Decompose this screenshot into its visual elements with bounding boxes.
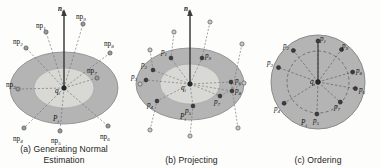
panel-b-caption: (b) Projecting bbox=[128, 155, 255, 166]
ordered-label-p5: p5 bbox=[313, 118, 319, 127]
normal-vector-label: ni bbox=[184, 6, 189, 15]
patch-label: Pi bbox=[301, 120, 307, 129]
center-point-marker bbox=[62, 86, 67, 91]
neighbor-label-np6: np6 bbox=[100, 134, 110, 143]
neighbor-label-np7: np7 bbox=[87, 68, 97, 77]
neighbor-label-np9: np9 bbox=[76, 14, 86, 23]
panel-generating-normal-estimation: ni qi Pi nnpp1 np2 np3 np4 np5 np6 np7 n… bbox=[0, 0, 128, 168]
panel-b-canvas bbox=[128, 0, 255, 148]
ordered-label-p4: p4 bbox=[274, 106, 280, 115]
ordered-label-p6: p6 bbox=[359, 87, 365, 96]
panel-a-caption: (a) Generating Normal Estimation bbox=[0, 144, 128, 166]
neighbor-label-np3: np3 bbox=[6, 82, 16, 91]
ordered-label-p9: p9 bbox=[342, 43, 348, 52]
panel-b-stage: ni qi Pi p1 p2 p3 p4 p5 p6 p7 p8 p9 bbox=[128, 0, 255, 148]
panel-c-stage: qi Pi p1 p2 p3 p4 p5 p6 p7 p8 p9 bbox=[255, 0, 381, 148]
ordered-label-p1: p1 bbox=[320, 36, 326, 45]
panel-c-caption: (c) Ordering bbox=[255, 155, 381, 166]
projected-label-p5: p5 bbox=[185, 108, 191, 117]
projected-label-p7: p7 bbox=[214, 99, 220, 108]
center-point-label: qi bbox=[181, 85, 186, 94]
projected-label-p3: p3 bbox=[131, 74, 137, 83]
neighbor-label-np8: np8 bbox=[104, 41, 114, 50]
patch-label: Pi bbox=[53, 116, 59, 125]
normal-vector-label: ni bbox=[58, 6, 63, 15]
ordered-label-p8: p8 bbox=[356, 68, 362, 77]
center-point-label: qi bbox=[310, 79, 315, 88]
center-point-marker bbox=[188, 82, 193, 87]
figure-three-panel-diagram: ni qi Pi nnpp1 np2 np3 np4 np5 np6 np7 n… bbox=[0, 0, 381, 168]
projected-label-p9: p9 bbox=[205, 53, 211, 62]
neighbor-label-np2: np2 bbox=[13, 39, 23, 48]
ordered-label-p3: p3 bbox=[267, 60, 273, 69]
projected-label-p2: p2 bbox=[141, 62, 147, 71]
ordered-label-p7: p7 bbox=[334, 104, 340, 113]
panel-projecting: ni qi Pi p1 p2 p3 p4 p5 p6 p7 p8 p9 (b) … bbox=[128, 0, 255, 168]
panel-a-canvas bbox=[0, 0, 128, 148]
projected-label-p4: p4 bbox=[147, 102, 153, 111]
ordered-label-p2: p2 bbox=[283, 43, 289, 52]
projected-label-p1: p1 bbox=[161, 49, 167, 58]
panel-ordering: qi Pi p1 p2 p3 p4 p5 p6 p7 p8 p9 (c) Ord… bbox=[255, 0, 381, 168]
center-point-marker bbox=[316, 80, 321, 85]
panel-a-stage: ni qi Pi nnpp1 np2 np3 np4 np5 np6 np7 n… bbox=[0, 0, 128, 148]
center-point-label: qi bbox=[55, 88, 60, 97]
neighbor-label-np1: nnpp1 bbox=[36, 23, 46, 32]
projected-label-p8: p8 bbox=[235, 88, 241, 97]
